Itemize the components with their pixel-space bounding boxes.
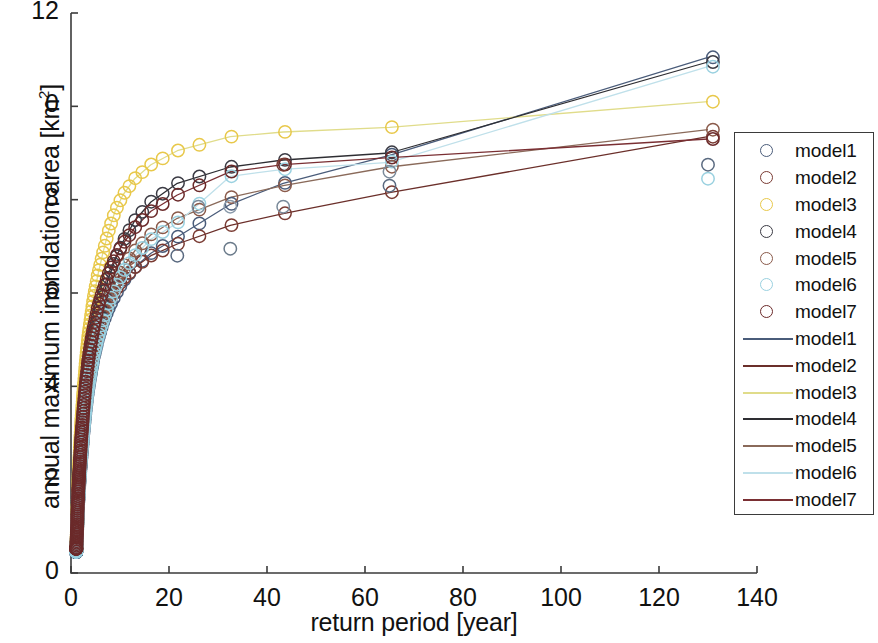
legend-entry-list: model1model2model3model4model5model6mode… [735, 138, 873, 513]
legend-item-label: model7 [795, 301, 857, 323]
x-tick-label: 100 [526, 583, 596, 612]
legend-line-swatch-icon [743, 418, 793, 420]
x-tick-label: 140 [722, 583, 792, 612]
legend-item-label: model3 [795, 194, 857, 216]
legend-item-marker-model6[interactable]: model6 [735, 272, 873, 299]
legend-item-label: model7 [795, 489, 857, 511]
legend-circle-marker-icon [760, 225, 773, 238]
legend-line-swatch-icon [743, 472, 793, 474]
legend-item-label: model1 [795, 328, 857, 350]
legend-item-line-model2[interactable]: model2 [735, 352, 873, 379]
legend-line-swatch-icon [743, 445, 793, 447]
legend-item-label: model5 [795, 248, 857, 270]
legend-item-line-model3[interactable]: model3 [735, 379, 873, 406]
x-tick-label: 60 [330, 583, 400, 612]
legend-item-marker-model7[interactable]: model7 [735, 299, 873, 326]
x-axis-label-text: return period [year] [310, 608, 517, 636]
legend-item-label: model2 [795, 355, 857, 377]
legend-item-label: model4 [795, 408, 857, 430]
legend-item-label: model5 [795, 435, 857, 457]
legend-item-label: model6 [795, 274, 857, 296]
legend-circle-marker-icon [760, 305, 773, 318]
y-tick-label: 4 [0, 369, 59, 398]
legend-line-swatch-icon [743, 499, 793, 501]
y-tick-label: 8 [0, 183, 59, 212]
y-tick-label: 12 [0, 0, 59, 25]
legend-item-line-model4[interactable]: model4 [735, 406, 873, 433]
legend-item-label: model3 [795, 382, 857, 404]
legend-item-label: model1 [795, 140, 857, 162]
legend-circle-marker-icon [760, 144, 773, 157]
legend-item-marker-model3[interactable]: model3 [735, 192, 873, 219]
data-point [702, 173, 714, 185]
legend: model1model2model3model4model5model6mode… [734, 132, 874, 515]
x-tick-label: 0 [36, 583, 106, 612]
legend-line-swatch-icon [743, 338, 793, 340]
legend-circle-marker-icon [760, 171, 773, 184]
y-tick-label: 6 [0, 276, 59, 305]
legend-circle-marker-icon [760, 252, 773, 265]
legend-item-line-model7[interactable]: model7 [735, 486, 873, 513]
legend-item-line-model6[interactable]: model6 [735, 460, 873, 487]
legend-line-swatch-icon [743, 392, 793, 394]
x-tick-label: 20 [134, 583, 204, 612]
legend-line-swatch-icon [743, 365, 793, 367]
x-tick-label: 120 [624, 583, 694, 612]
data-point [707, 96, 719, 108]
figure-canvas: annual maximum inundation area [km2] ret… [0, 0, 878, 643]
legend-item-marker-model5[interactable]: model5 [735, 245, 873, 272]
legend-item-label: model2 [795, 167, 857, 189]
legend-item-marker-model1[interactable]: model1 [735, 138, 873, 165]
y-tick-label: 0 [0, 89, 59, 118]
legend-item-marker-model2[interactable]: model2 [735, 165, 873, 192]
x-tick-label: 40 [232, 583, 302, 612]
legend-item-label: model6 [795, 462, 857, 484]
legend-circle-marker-icon [760, 198, 773, 211]
legend-item-line-model1[interactable]: model1 [735, 326, 873, 353]
x-axis-label: return period [year] [71, 608, 757, 637]
data-point [224, 243, 236, 255]
legend-item-line-model5[interactable]: model5 [735, 433, 873, 460]
legend-item-marker-model4[interactable]: model4 [735, 218, 873, 245]
legend-circle-marker-icon [760, 278, 773, 291]
y-tick-label: 2 [0, 463, 59, 492]
legend-item-label: model4 [795, 221, 857, 243]
x-tick-label: 80 [428, 583, 498, 612]
y-tick-label: 0 [0, 556, 59, 585]
data-point [171, 250, 183, 262]
data-point [702, 159, 714, 171]
